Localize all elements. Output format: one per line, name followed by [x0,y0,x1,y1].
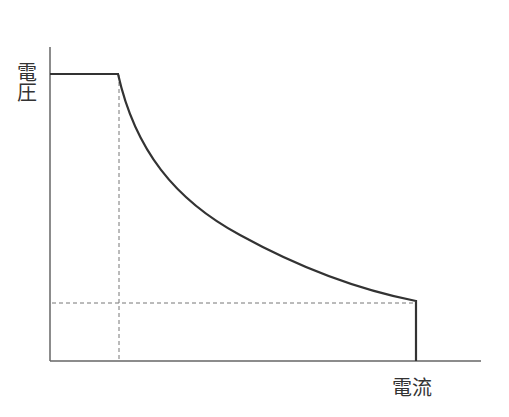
chart-canvas [0,0,509,417]
chart-figure: 電圧 電流 [0,0,509,417]
characteristic-curve [50,74,416,361]
y-axis-label: 電圧 [12,62,36,102]
x-axis-label: 電流 [392,372,432,401]
